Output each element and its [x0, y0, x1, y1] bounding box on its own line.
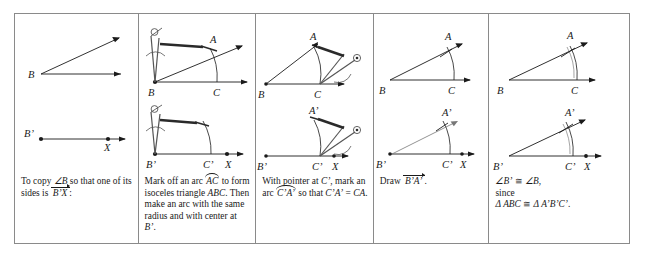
- panel-5-comma: ,: [539, 176, 541, 186]
- panel-2-diagram: B A C B’ C’ X: [139, 14, 257, 174]
- panel-5-diagram: B A C B’ C’ A’ X: [489, 14, 629, 174]
- label-aprime: A’: [441, 107, 452, 118]
- panel-1-ray-label: B’X: [51, 188, 70, 200]
- arrowhead-bc-top: [589, 77, 596, 82]
- label-cprime: C’: [565, 161, 576, 172]
- panel-3-diagram: B A C B’ C’ A’ X: [256, 14, 374, 174]
- panel-2-figures: B A C B’ C’ X: [139, 14, 256, 174]
- ray-ba-top: [155, 46, 242, 82]
- panel-1-given-angle: B B’ X To copy ∠B so that one of its sid…: [15, 14, 139, 243]
- label-c: C: [571, 85, 579, 96]
- panel-4-figures: B A C B’ C’ A’ X: [374, 14, 489, 174]
- compass-icon-top: [146, 28, 217, 82]
- label-c: C: [314, 89, 322, 100]
- panel-5-triangle-aprimebprimecprime: Δ A’B’C’: [534, 199, 568, 209]
- panel-1-diagram: B B’ X: [15, 14, 139, 174]
- dot-bprime-bottom: [264, 154, 268, 158]
- panel-3-pointer-label: C’: [321, 176, 330, 186]
- panel-3-arc-label: C’A’: [276, 188, 296, 200]
- panel-1-caption: To copy ∠B so that one of its sides is B…: [15, 174, 138, 199]
- panel-3-caption-pre: With pointer at: [262, 176, 321, 186]
- panel-4-caption-pre: Draw: [380, 176, 403, 186]
- compass-icon-top: [312, 42, 361, 84]
- label-a: A: [444, 31, 452, 42]
- panel-2-caption: Mark off an arc AC to form isoceles tria…: [139, 174, 256, 234]
- arrowhead-ba-top: [235, 45, 243, 50]
- label-b: B: [258, 89, 265, 100]
- label-a: A: [309, 31, 317, 42]
- label-x: X: [224, 159, 232, 170]
- panel-5-congruent-op-2: ≅: [521, 199, 534, 209]
- label-bprime: B’: [257, 161, 267, 172]
- dot-x-bottom: [224, 152, 228, 156]
- panel-5-triangle-abc: Δ ABC: [495, 199, 520, 209]
- arc-bprime-bottom: [314, 120, 321, 156]
- panel-1-angle-symbol: ∠B: [54, 176, 68, 186]
- label-b: B: [148, 87, 155, 98]
- panel-2-caption-end: .: [153, 222, 155, 232]
- ray-bprime-aprime: [392, 123, 454, 154]
- label-x: X: [583, 161, 591, 172]
- panel-2-mark-arc: B A C B’ C’ X Mark off an arc AC to form…: [139, 14, 257, 243]
- label-cprime: C’: [442, 159, 453, 170]
- panel-4-caption-end: .: [424, 176, 426, 186]
- label-c: C: [213, 87, 221, 98]
- panel-4-draw-ray: B A C B’ C’ A’ X Draw B’A’.: [374, 14, 490, 243]
- label-cprime: C’: [312, 161, 323, 172]
- panel-4-caption: Draw B’A’.: [374, 174, 489, 188]
- construction-steps-table: B B’ X To copy ∠B so that one of its sid…: [14, 13, 630, 244]
- label-a: A: [209, 34, 217, 45]
- label-bprime: B’: [376, 159, 386, 170]
- arrowhead-bprime-x: [119, 136, 126, 141]
- arrowhead-bprimex-bottom: [342, 153, 349, 158]
- label-aprime: A’: [564, 107, 575, 118]
- compass-icon-bottom: [146, 105, 209, 154]
- panel-5-congruent-op-1: ≅: [512, 176, 525, 186]
- arrowhead-ba-top: [581, 42, 589, 47]
- ray-ba-top: [266, 44, 318, 84]
- panel-5-figures: B A C B’ C’ A’ X: [489, 14, 629, 174]
- arrowhead-bc: [114, 71, 121, 76]
- label-b: B: [28, 69, 35, 80]
- dot-b-top: [264, 82, 268, 86]
- dot-bprime: [39, 137, 43, 141]
- arrowhead-bprime-aprime: [579, 119, 587, 124]
- label-cprime: C’: [203, 159, 214, 170]
- panel-3-eq-right: CA: [353, 188, 365, 198]
- panel-5-angle-bprime: ∠B’: [495, 176, 512, 186]
- arc-ac: [210, 48, 217, 82]
- panel-5-conclusion: B A C B’ C’ A’ X ∠B’ ≅ ∠B, since Δ ABC ≅…: [489, 14, 629, 243]
- panel-5-since: since: [495, 188, 514, 198]
- arc-ac-top: [314, 47, 321, 84]
- tick-aprime-bottom: [559, 124, 573, 133]
- panel-3-caption: With pointer at C’, mark an arc C’A’ so …: [256, 174, 373, 199]
- panel-4-ray-label: B’A’: [403, 176, 424, 188]
- arrowhead-bprime-aprime: [450, 121, 457, 126]
- label-x: X: [459, 159, 467, 170]
- dot-x-bottom: [332, 154, 336, 158]
- ray-ba-top: [509, 43, 587, 80]
- label-b: B: [497, 85, 504, 96]
- panel-3-eq-op: =: [343, 188, 353, 198]
- arrowhead-bc-top: [464, 77, 471, 82]
- panel-4-diagram: B A C B’ C’ A’ X: [374, 14, 490, 174]
- panel-3-caption-post: so that: [296, 188, 325, 198]
- panel-3-figures: B A C B’ C’ A’ X: [256, 14, 373, 174]
- arc-ac-top: [570, 46, 577, 80]
- arrowhead-ba-top: [455, 43, 463, 48]
- dot-x-bottom: [585, 154, 589, 158]
- ray-ba: [41, 38, 119, 74]
- label-bprime: B’: [146, 159, 156, 170]
- label-aprime: A’: [308, 105, 319, 116]
- label-c: C: [448, 85, 456, 96]
- panel-5-angle-b: ∠B: [525, 176, 539, 186]
- label-b: B: [379, 85, 386, 96]
- dot-x-bottom: [460, 152, 464, 156]
- label-bprime: B’: [493, 161, 503, 172]
- panel-5-period: .: [568, 199, 570, 209]
- figure-sheet: B B’ X To copy ∠B so that one of its sid…: [0, 0, 645, 263]
- label-x: X: [331, 161, 339, 172]
- dot-bprime-bottom: [388, 152, 392, 156]
- panel-3-caption-end: .: [365, 188, 367, 198]
- panel-3-transfer-arc: B A C B’ C’ A’ X With pointer at C’, mar…: [256, 14, 374, 243]
